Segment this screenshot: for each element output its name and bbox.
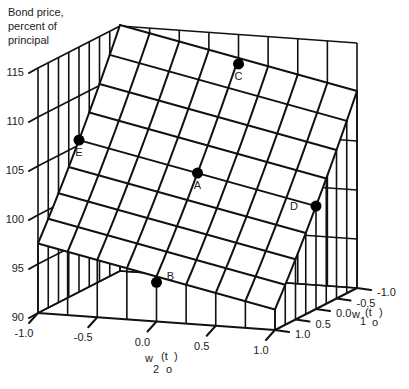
point-label-d: D — [290, 200, 298, 212]
z-tick-label: 90 — [12, 311, 24, 323]
x-axis-title-main: w — [144, 352, 153, 364]
point-c — [233, 58, 244, 69]
y-tick — [316, 309, 330, 311]
chart-container: 9095100105110115-1.0-0.50.00.51.0-1.0-0.… — [0, 0, 409, 389]
y-tick-label: 0.5 — [316, 318, 331, 330]
x-axis-title-paren-sub: o — [166, 363, 172, 375]
y-tick — [275, 330, 289, 332]
y-tick-label: 0.0 — [336, 307, 351, 319]
z-tick — [29, 215, 38, 220]
y-axis-title-paren-sub: o — [372, 316, 378, 328]
z-axis-title-line-1: Bond price, — [8, 6, 64, 18]
point-label-c: C — [235, 70, 243, 82]
point-label-e: E — [75, 146, 82, 158]
surface-fill — [38, 25, 357, 309]
y-axis-title-main: w — [351, 308, 360, 320]
x-tick — [207, 326, 216, 336]
point-e — [74, 135, 85, 146]
point-label-b: B — [167, 270, 174, 282]
z-tick — [29, 68, 38, 73]
y-axis-title: w 1 (t o ) — [351, 306, 383, 328]
x-tick-label: 0.5 — [194, 340, 209, 352]
x-tick-label: 1.0 — [253, 344, 268, 356]
z-tick-label: 105 — [6, 164, 24, 176]
point-a — [192, 168, 203, 179]
y-tick — [337, 299, 351, 301]
x-tick-label: -0.5 — [74, 331, 93, 343]
surface-plot: 9095100105110115-1.0-0.50.00.51.0-1.0-0.… — [0, 0, 409, 389]
y-axis-title-close: ) — [379, 306, 383, 318]
point-d — [311, 201, 322, 212]
y-axis-title-paren: (t — [365, 306, 372, 318]
z-tick-label: 95 — [12, 262, 24, 274]
x-tick — [266, 330, 275, 340]
x-tick-label: 0.0 — [135, 336, 150, 348]
z-tick — [29, 166, 38, 171]
x-axis-title-close: ) — [174, 350, 178, 362]
y-tick-label: 1.0 — [295, 328, 310, 340]
point-label-a: A — [194, 179, 202, 191]
z-tick-label: 100 — [6, 213, 24, 225]
x-axis-title-paren: (t — [161, 350, 168, 362]
y-tick — [357, 288, 371, 290]
z-tick-label: 110 — [6, 115, 24, 127]
x-tick — [88, 317, 97, 327]
z-tick — [29, 264, 38, 269]
x-tick-label: -1.0 — [15, 327, 34, 339]
x-axis-title: w 2 (t o ) — [144, 350, 178, 375]
x-tick — [148, 322, 157, 332]
z-tick — [29, 117, 38, 122]
z-tick-label: 115 — [6, 66, 24, 78]
z-axis-title-line-2: percent of — [8, 20, 58, 32]
y-tick — [296, 320, 310, 322]
y-tick-label: -1.0 — [377, 286, 396, 298]
x-axis-title-sub: 2 — [153, 363, 159, 375]
point-b — [151, 277, 162, 288]
z-axis-title-line-3: principal — [8, 34, 49, 46]
